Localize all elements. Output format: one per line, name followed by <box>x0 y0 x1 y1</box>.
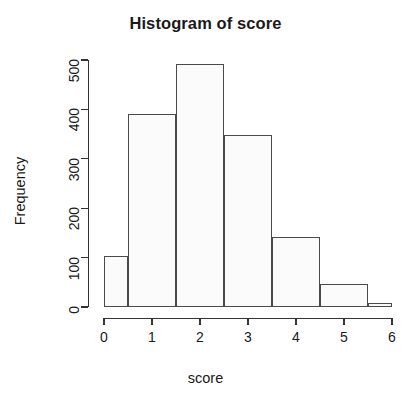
x-axis-tick <box>391 318 392 325</box>
histogram-bar <box>104 256 128 307</box>
plot-area: 0100200300400500 0123456 <box>0 0 411 407</box>
x-axis-tick-label: 6 <box>372 329 411 345</box>
y-axis-line <box>88 60 89 307</box>
x-axis-tick <box>103 318 104 325</box>
x-axis-tick-label: 0 <box>84 329 124 345</box>
y-axis-tick-label-text: 100 <box>66 257 82 280</box>
histogram-bar <box>176 64 224 307</box>
histogram-bar <box>128 114 176 307</box>
x-axis-tick <box>199 318 200 325</box>
histogram-bar <box>224 135 272 307</box>
x-axis-tick-label: 3 <box>228 329 268 345</box>
y-axis-title-label: Frequency <box>12 131 28 251</box>
y-axis-tick <box>81 306 88 307</box>
x-axis-tick <box>343 318 344 325</box>
histogram-bar <box>320 284 368 307</box>
histogram-bar <box>368 303 392 307</box>
x-axis-tick-label: 5 <box>324 329 364 345</box>
x-axis-tick-label: 4 <box>276 329 316 345</box>
x-axis-tick-label: 2 <box>180 329 220 345</box>
y-axis-tick-label-text: 500 <box>66 59 82 82</box>
y-axis-tick-label-text: 400 <box>66 108 82 131</box>
x-axis-tick <box>247 318 248 325</box>
x-axis-tick-label: 1 <box>132 329 172 345</box>
y-axis-tick-label-text: 200 <box>66 207 82 230</box>
histogram-figure: Histogram of score 0100200300400500 0123… <box>0 0 411 407</box>
y-axis-tick-label-text: 300 <box>66 158 82 181</box>
y-axis-tick-label-text: 0 <box>66 306 82 314</box>
histogram-bar <box>272 237 320 307</box>
x-axis-title-label: score <box>188 370 223 386</box>
x-axis-title: score <box>0 370 411 386</box>
x-axis-tick <box>295 318 296 325</box>
x-axis-tick <box>151 318 152 325</box>
